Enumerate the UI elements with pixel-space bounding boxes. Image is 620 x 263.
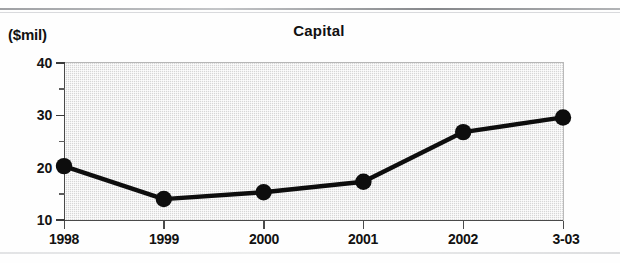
capital-series-markers <box>56 109 571 207</box>
data-point-2001 <box>355 174 371 190</box>
data-series-layer <box>0 0 620 263</box>
capital-series-line <box>64 117 563 199</box>
data-point-3-03 <box>555 109 571 125</box>
data-point-1999 <box>156 191 172 207</box>
data-point-2002 <box>455 124 471 140</box>
data-point-2000 <box>255 184 271 200</box>
capital-line-chart: ($mil) Capital 10 20 30 40 1998 1999 200… <box>0 0 620 263</box>
data-point-1998 <box>56 158 72 174</box>
